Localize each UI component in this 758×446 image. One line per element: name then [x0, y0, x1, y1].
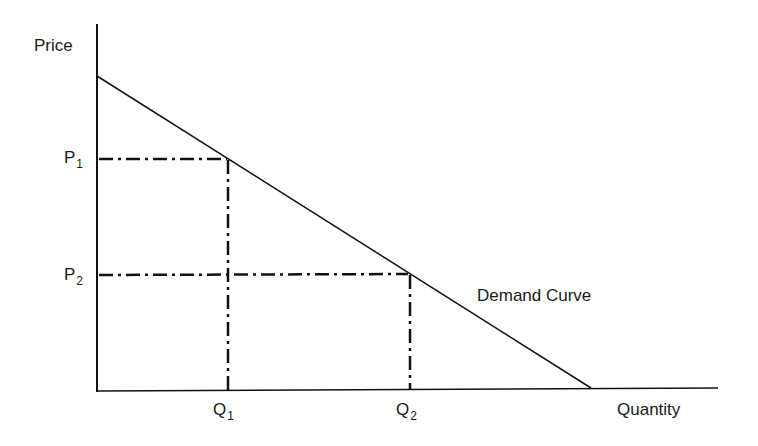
q2-label-sub: 2 — [410, 409, 417, 423]
p1-label-base: P — [64, 148, 75, 167]
y-axis-label: Price — [34, 36, 73, 56]
q1-label-base: Q — [213, 400, 226, 419]
p2-label: P2 — [64, 265, 83, 285]
q1-label: Q1 — [213, 400, 234, 420]
x-axis-label: Quantity — [617, 400, 680, 420]
q2-label-base: Q — [396, 400, 409, 419]
demand-curve-label: Demand Curve — [477, 286, 591, 306]
q1-label-sub: 1 — [227, 409, 234, 423]
p2-guide — [99, 274, 408, 275]
p2-label-base: P — [64, 265, 75, 284]
x-axis — [97, 388, 718, 391]
q2-label: Q2 — [396, 400, 417, 420]
p2-label-sub: 2 — [76, 274, 83, 288]
p1-label-sub: 1 — [76, 157, 83, 171]
demand-curve — [97, 76, 591, 388]
p1-label: P1 — [64, 148, 83, 168]
demand-diagram — [0, 0, 758, 446]
